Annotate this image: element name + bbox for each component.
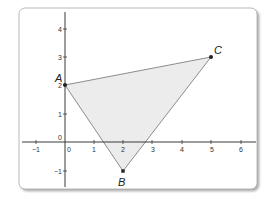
- x-tick-label-5: 5: [210, 146, 214, 153]
- point-b-label: B: [118, 176, 125, 188]
- point-b-marker: [121, 169, 124, 172]
- point-c-label: C: [214, 44, 222, 56]
- x-tick-label-m1: −1: [32, 146, 40, 153]
- y-tick-label-0: 0: [58, 134, 62, 141]
- y-tick-label-1: 1: [58, 111, 62, 118]
- point-c-marker: [209, 55, 213, 59]
- x-tick-label-1: 1: [92, 146, 96, 153]
- coordinate-plane-figure: −1 0 1 2 3 4 5 6 4 3 2 1 0 −1 A B C: [0, 0, 275, 204]
- x-tick-label-6: 6: [239, 146, 243, 153]
- x-tick-label-2: 2: [121, 146, 125, 153]
- y-tick-label-m1: −1: [54, 168, 62, 175]
- graph-svg: −1 0 1 2 3 4 5 6 4 3 2 1 0 −1 A B C: [0, 0, 275, 204]
- point-a-marker: [63, 83, 67, 87]
- y-tick-label-4: 4: [58, 26, 62, 33]
- x-tick-label-4: 4: [180, 146, 184, 153]
- x-tick-label-3: 3: [151, 146, 155, 153]
- point-a-label: A: [54, 72, 62, 84]
- y-tick-label-3: 3: [58, 54, 62, 61]
- x-tick-label-0: 0: [67, 146, 71, 153]
